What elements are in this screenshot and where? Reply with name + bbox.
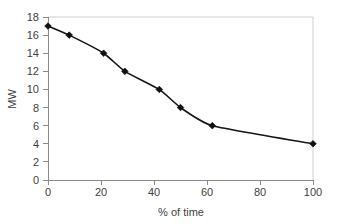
y-tick-label: 16	[27, 29, 39, 41]
x-tick-label: 0	[45, 186, 51, 198]
line-chart: 0 2 4 6 8 10 12 14 16 18 0 20 40 60 80	[0, 0, 341, 224]
y-tick-label: 10	[27, 83, 39, 95]
y-tick-label: 0	[33, 174, 39, 186]
y-tick-label: 8	[33, 102, 39, 114]
y-tick-label: 14	[27, 47, 39, 59]
x-tick-label: 40	[148, 186, 160, 198]
x-tick-label: 20	[95, 186, 107, 198]
chart-background	[0, 0, 341, 224]
y-tick-label: 4	[33, 138, 39, 150]
y-tick-label: 18	[27, 11, 39, 23]
y-tick-label: 6	[33, 120, 39, 132]
x-tick-label: 100	[304, 186, 322, 198]
x-axis-title: % of time	[158, 206, 204, 218]
x-tick-label: 80	[254, 186, 266, 198]
y-axis-title: MW	[6, 89, 18, 109]
x-tick-label: 60	[201, 186, 213, 198]
y-tick-label: 2	[33, 156, 39, 168]
y-tick-label: 12	[27, 65, 39, 77]
chart-container: 0 2 4 6 8 10 12 14 16 18 0 20 40 60 80	[0, 0, 341, 224]
